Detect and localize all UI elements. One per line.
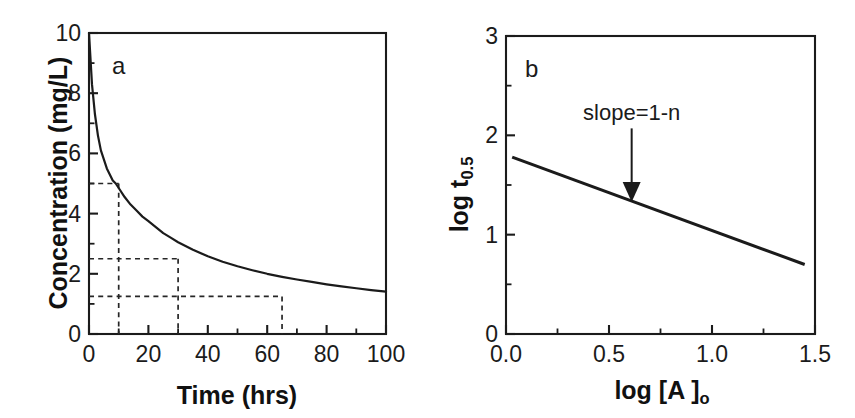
panel-a: a Concentration (mg/L) Time (hrs) 020406… xyxy=(0,0,430,418)
panel-a-yticklabel: 0 xyxy=(0,323,81,346)
slope-annotation-text: slope=1-n xyxy=(583,102,680,124)
panel-a-yticklabel: 2 xyxy=(0,262,81,285)
log-half-life-vs-log-initial-concentration-series xyxy=(512,157,805,264)
panel-b-x-axis-title: log [A ]o xyxy=(614,378,709,403)
panel-b-label: b xyxy=(525,57,538,81)
panel-a-yticklabel: 8 xyxy=(0,82,81,105)
panel-a-xticklabel: 0 xyxy=(83,343,96,366)
panel-b-axis-frame xyxy=(506,36,815,334)
concentration-decay-series xyxy=(89,33,386,292)
panel-a-xticklabel: 60 xyxy=(254,343,280,366)
panel-a-xticklabel: 100 xyxy=(367,343,405,366)
panel-a-x-axis-title: Time (hrs) xyxy=(177,383,297,408)
panel-b-yticklabel: 0 xyxy=(410,323,498,346)
panel-a-yticklabel: 10 xyxy=(0,22,81,45)
panel-b-y-axis-title-sub: 0.5 xyxy=(457,157,475,180)
panel-a-axis-frame xyxy=(89,33,386,334)
panel-a-yticklabel: 4 xyxy=(0,202,81,225)
panel-b-xticklabel: 0.5 xyxy=(593,343,625,366)
panel-b-x-axis-title-sub: o xyxy=(700,389,710,407)
panel-b-yticklabel: 3 xyxy=(410,25,498,48)
panel-b-xticklabel: 1.0 xyxy=(696,343,728,366)
panel-a-xticklabel: 40 xyxy=(195,343,221,366)
panel-a-xticklabel: 80 xyxy=(314,343,340,366)
panel-b-xticklabel: 1.5 xyxy=(799,343,831,366)
panel-b-yticklabel: 1 xyxy=(410,223,498,246)
panel-b: b log t0.5 log [A ]o 0.00.51.01.50123slo… xyxy=(430,0,855,418)
panel-a-yticklabel: 6 xyxy=(0,142,81,165)
figure-two-panel-kinetics: a Concentration (mg/L) Time (hrs) 020406… xyxy=(0,0,855,418)
panel-b-yticklabel: 2 xyxy=(410,124,498,147)
panel-b-x-axis-title-main: log [A ] xyxy=(614,376,699,404)
panel-a-xticklabel: 20 xyxy=(136,343,162,366)
panel-a-label: a xyxy=(112,54,125,78)
